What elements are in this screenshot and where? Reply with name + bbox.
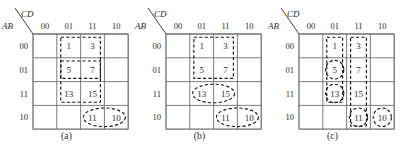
cell-15: 15 [88,89,98,99]
row-header-10-3: 10 [286,112,295,122]
row-header-11-2: 11 [20,89,28,99]
cell-1: 1 [199,41,204,51]
col-header-10-3: 10 [245,21,254,31]
col-header-11-2: 11 [354,21,362,31]
cell-10: 10 [112,113,122,123]
row-header-10-3: 10 [153,112,162,122]
col-variable-label: CD [21,9,34,19]
cell-5: 5 [332,65,337,75]
row-header-00-0: 00 [20,41,29,51]
col-header-01-1: 01 [197,21,206,31]
cell-3: 3 [356,41,361,51]
cell-13: 13 [197,89,207,99]
col-header-00-0: 00 [174,21,183,31]
row-header-00-0: 00 [153,41,162,51]
cell-1: 1 [332,41,337,51]
col-header-10-3: 10 [378,21,387,31]
row-header-01-1: 01 [20,65,29,75]
cell-7: 7 [90,65,95,75]
cell-3: 3 [223,41,228,51]
cell-5: 5 [199,65,204,75]
col-header-11-2: 11 [88,21,96,31]
cell-15: 15 [221,89,231,99]
cell-3: 3 [90,41,95,51]
col-header-11-2: 11 [221,21,229,31]
cell-7: 7 [356,65,361,75]
row-header-01-1: 01 [153,65,162,75]
kmap-a: CDAB0001111000011110135713151110 (a) [0,0,133,153]
col-variable-label: CD [287,9,300,19]
cell-11: 11 [88,113,97,123]
row-header-11-2: 11 [153,89,161,99]
cell-1: 1 [66,41,71,51]
cell-11: 11 [221,113,230,123]
cell-13: 13 [64,89,74,99]
col-header-00-0: 00 [41,21,50,31]
kmap-c: CDAB0001111000011110135713151110 (c) [266,0,399,153]
kmap-a-caption: (a) [0,131,133,141]
cell-13: 13 [330,89,340,99]
col-header-00-0: 00 [307,21,316,31]
kmap-figure: CDAB0001111000011110135713151110 (a) CDA… [0,0,400,153]
col-header-01-1: 01 [330,21,339,31]
row-header-11-2: 11 [286,89,294,99]
row-variable-label: AB [134,21,146,31]
row-header-10-3: 10 [20,112,29,122]
row-header-00-0: 00 [286,41,295,51]
col-header-10-3: 10 [112,21,121,31]
row-variable-label: AB [267,21,279,31]
cell-7: 7 [223,65,228,75]
col-variable-label: CD [154,9,167,19]
kmap-b-caption: (b) [133,131,266,141]
row-header-01-1: 01 [286,65,295,75]
cell-5: 5 [66,65,71,75]
cell-10: 10 [245,113,255,123]
kmap-b: CDAB0001111000011110135713151110 (b) [133,0,266,153]
cell-11: 11 [354,113,363,123]
cell-10: 10 [378,113,388,123]
row-variable-label: AB [1,21,13,31]
cell-15: 15 [354,89,364,99]
col-header-01-1: 01 [64,21,73,31]
kmap-c-caption: (c) [266,131,399,141]
